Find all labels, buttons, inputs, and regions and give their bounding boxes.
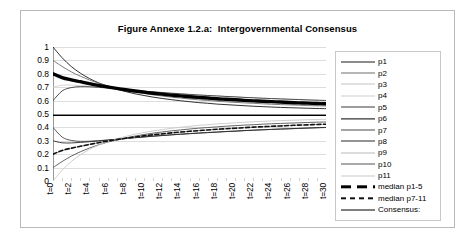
legend-item-p9[interactable]: p9 (339, 147, 438, 158)
series-line-p7 (53, 127, 326, 141)
legend-swatch-icon (339, 171, 375, 181)
legend-swatch-icon (339, 159, 375, 169)
y-tick-label: 0.3 (23, 137, 49, 145)
x-tick-label: t=24 (263, 183, 273, 199)
x-tick-label: t=28 (300, 183, 310, 199)
legend-label: p1 (378, 57, 387, 66)
plot-area (53, 47, 326, 181)
legend-swatch-icon (339, 91, 375, 101)
legend-item-median-p7-11[interactable]: median p7-11 (339, 193, 438, 204)
legend-swatch-icon (339, 102, 375, 112)
chart-frame: Figure Annexe 1.2.a: Intergovernmental C… (20, 10, 455, 228)
y-axis: 10.90.80.70.60.50.40.30.20.10 (23, 47, 49, 181)
legend-label: p5 (378, 103, 387, 112)
legend-label: p8 (378, 137, 387, 146)
legend-item-consensus-[interactable]: Consensus: (339, 204, 438, 215)
series-line-p5 (53, 87, 326, 101)
x-tick-label: t=14 (172, 183, 182, 199)
legend-label: p11 (378, 171, 391, 180)
legend-label: p10 (378, 160, 391, 169)
legend-swatch-icon (339, 182, 375, 192)
legend-item-p3[interactable]: p3 (339, 79, 438, 90)
y-tick-label: 0.9 (23, 56, 49, 64)
legend-label: p7 (378, 126, 387, 135)
legend-label: p6 (378, 114, 387, 123)
legend-swatch-icon (339, 148, 375, 158)
legend-item-p1[interactable]: p1 (339, 56, 438, 67)
x-tick-label: t=30 (318, 183, 328, 199)
legend-swatch-icon (339, 193, 375, 203)
legend-item-p2[interactable]: p2 (339, 67, 438, 78)
x-tick-label: t=16 (191, 183, 201, 199)
legend-swatch-icon (339, 125, 375, 135)
legend-label: p9 (378, 148, 387, 157)
legend-swatch-icon (339, 57, 375, 67)
x-tick-label: t=8 (118, 183, 128, 194)
y-tick-label: 0.2 (23, 150, 49, 158)
legend-label: p4 (378, 91, 387, 100)
legend-item-p8[interactable]: p8 (339, 136, 438, 147)
x-tick-label: t=6 (100, 183, 110, 194)
x-tick-label: t=2 (63, 183, 73, 194)
x-tick-label: t=20 (227, 183, 237, 199)
x-tick-label: t=10 (136, 183, 146, 199)
legend-item-median-p1-5[interactable]: median p1-5 (339, 181, 438, 192)
legend-item-p6[interactable]: p6 (339, 113, 438, 124)
legend-label: Consensus: (378, 205, 420, 214)
plot-svg (53, 47, 326, 181)
legend-swatch-icon (339, 79, 375, 89)
legend-swatch-icon (339, 205, 375, 215)
legend-item-p4[interactable]: p4 (339, 90, 438, 101)
y-tick-label: 0.7 (23, 83, 49, 91)
legend-swatch-icon (339, 68, 375, 78)
legend-item-p10[interactable]: p10 (339, 159, 438, 170)
x-tick-label: t=0 (45, 183, 55, 194)
legend-label: p3 (378, 80, 387, 89)
x-axis: t=0t=2t=4t=6t=8t=10t=12t=14t=16t=18t=20t… (53, 183, 326, 227)
y-tick-label: 0.8 (23, 70, 49, 78)
legend-item-p11[interactable]: p11 (339, 170, 438, 181)
y-tick-label: 0.1 (23, 164, 49, 172)
chart-title: Figure Annexe 1.2.a: Intergovernmental C… (21, 23, 454, 34)
y-tick-label: 0.6 (23, 97, 49, 105)
y-tick-label: 0.5 (23, 110, 49, 118)
legend-item-p7[interactable]: p7 (339, 124, 438, 135)
legend-label: median p1-5 (378, 182, 422, 191)
legend-item-p5[interactable]: p5 (339, 102, 438, 113)
x-tick-label: t=12 (154, 183, 164, 199)
x-tick-label: t=4 (81, 183, 91, 194)
legend-label: p2 (378, 69, 387, 78)
legend-swatch-icon (339, 136, 375, 146)
x-tick-label: t=26 (282, 183, 292, 199)
y-tick-label: 0.4 (23, 123, 49, 131)
legend-label: median p7-11 (378, 194, 426, 203)
y-tick-label: 1 (23, 43, 49, 51)
legend-swatch-icon (339, 114, 375, 124)
x-tick-label: t=18 (209, 183, 219, 199)
x-tick-label: t=22 (245, 183, 255, 199)
chart-legend: p1p2p3p4p5p6p7p8p9p10p11median p1-5media… (335, 51, 441, 221)
